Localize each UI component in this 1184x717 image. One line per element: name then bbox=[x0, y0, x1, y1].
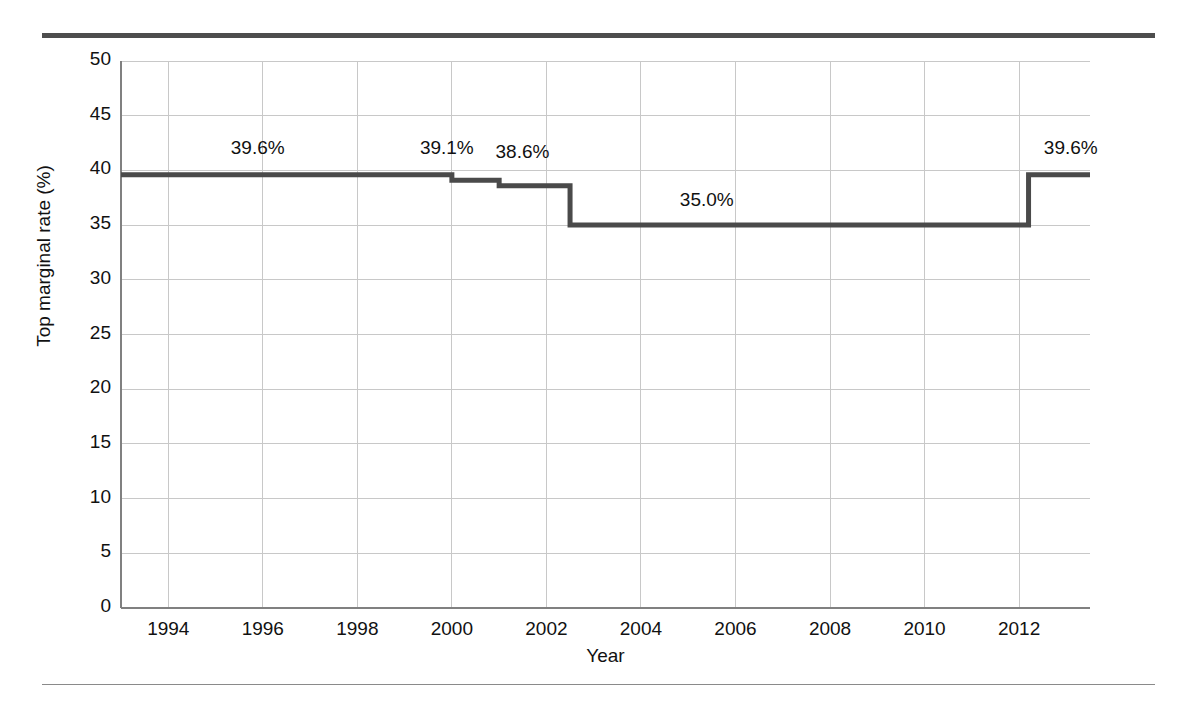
value-annotation: 39.1% bbox=[420, 137, 474, 159]
x-tick-label: 2004 bbox=[596, 618, 686, 640]
y-tick-label: 5 bbox=[55, 540, 111, 562]
y-tick-label: 30 bbox=[55, 267, 111, 289]
series-line-top-marginal-rate bbox=[121, 175, 1090, 225]
value-annotation: 39.6% bbox=[231, 137, 285, 159]
value-annotation: 38.6% bbox=[496, 141, 550, 163]
y-tick-label: 35 bbox=[55, 212, 111, 234]
y-axis-title: Top marginal rate (%) bbox=[33, 116, 55, 396]
y-tick-label: 20 bbox=[55, 376, 111, 398]
y-tick-label: 50 bbox=[55, 48, 111, 70]
y-tick-label: 15 bbox=[55, 431, 111, 453]
x-tick-label: 2000 bbox=[407, 618, 497, 640]
y-tick-label: 0 bbox=[55, 595, 111, 617]
y-tick-label: 45 bbox=[55, 103, 111, 125]
y-tick-label: 40 bbox=[55, 157, 111, 179]
x-tick-label: 2006 bbox=[690, 618, 780, 640]
line-chart bbox=[0, 0, 1184, 717]
y-tick-label: 10 bbox=[55, 486, 111, 508]
x-tick-label: 1994 bbox=[123, 618, 213, 640]
value-annotation: 39.6% bbox=[1044, 137, 1098, 159]
x-tick-label: 1996 bbox=[218, 618, 308, 640]
figure-container: 05101520253035404550 1994199619982000200… bbox=[0, 0, 1184, 717]
x-tick-label: 2008 bbox=[785, 618, 875, 640]
value-annotation: 35.0% bbox=[680, 189, 734, 211]
x-tick-label: 2012 bbox=[974, 618, 1064, 640]
x-tick-label: 2010 bbox=[880, 618, 970, 640]
x-tick-label: 2002 bbox=[501, 618, 591, 640]
gridlines-horizontal bbox=[121, 61, 1090, 553]
y-tick-label: 25 bbox=[55, 322, 111, 344]
x-tick-label: 1998 bbox=[312, 618, 402, 640]
x-axis-title: Year bbox=[121, 645, 1090, 667]
